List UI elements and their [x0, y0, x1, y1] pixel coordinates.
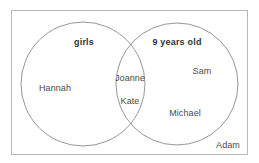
- member-label-adam: Adam: [216, 140, 240, 150]
- member-label-joanne: Joanne: [115, 73, 145, 83]
- member-label-hannah: Hannah: [39, 83, 71, 93]
- venn-diagram-canvas: girls 9 years old Hannah Joanne Kate Sam…: [0, 0, 259, 163]
- member-label-kate: Kate: [121, 96, 140, 106]
- member-label-sam: Sam: [193, 66, 212, 76]
- set-label-nine-years-old: 9 years old: [152, 37, 201, 47]
- set-label-girls: girls: [74, 37, 94, 47]
- member-label-michael: Michael: [169, 108, 201, 118]
